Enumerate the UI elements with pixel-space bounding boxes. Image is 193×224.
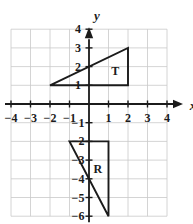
x-tick-label-4: 4 bbox=[164, 112, 170, 124]
y-tick-label-2: 2 bbox=[75, 61, 81, 73]
coordinate-plane-figure: −4−3−2−112344321−1−2−3−4−5−6xyTR bbox=[0, 0, 193, 224]
x-axis-name: x bbox=[190, 99, 193, 112]
shape-label-T: T bbox=[111, 65, 119, 77]
y-tick-label-1: 1 bbox=[75, 79, 81, 91]
y-tick-label--1: −1 bbox=[72, 117, 85, 129]
x-tick-label-3: 3 bbox=[145, 112, 151, 124]
x-tick-label--4: −4 bbox=[5, 112, 18, 124]
y-tick-label-3: 3 bbox=[75, 42, 81, 54]
y-tick-label--5: −5 bbox=[72, 192, 85, 204]
y-tick-label--2: −2 bbox=[72, 135, 85, 147]
y-axis-name: y bbox=[94, 9, 100, 22]
x-tick-label--3: −3 bbox=[24, 112, 37, 124]
x-tick-label--2: −2 bbox=[44, 112, 57, 124]
x-tick-label-1: 1 bbox=[106, 112, 112, 124]
y-tick-label--3: −3 bbox=[72, 154, 85, 166]
x-tick-label-2: 2 bbox=[125, 112, 131, 124]
y-tick-label-4: 4 bbox=[75, 23, 81, 35]
shape-label-R: R bbox=[93, 163, 102, 175]
x-axis-arrowhead bbox=[173, 100, 183, 108]
y-tick-label--4: −4 bbox=[72, 173, 85, 185]
y-tick-label--6: −6 bbox=[72, 210, 85, 222]
